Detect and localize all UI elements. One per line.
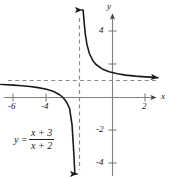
y-tick-label-4: 4 — [99, 26, 104, 35]
y-tick-label--4: -4 — [96, 158, 104, 167]
equation-numerator: x + 3 — [29, 128, 54, 139]
equation-denominator: x + 2 — [29, 140, 54, 151]
equation-annotation: y = x + 3 x + 2 — [14, 128, 54, 151]
x-tick-label--4: -4 — [41, 102, 49, 111]
x-tick-label-2: 2 — [142, 102, 147, 111]
curve-right-branch — [82, 10, 158, 78]
y-axis-label: y — [107, 2, 111, 11]
equation-lhs: y — [14, 135, 18, 145]
graph-canvas — [0, 0, 169, 178]
y-axis — [109, 14, 117, 176]
equation-equals-sign: = — [21, 135, 27, 145]
rational-function-graph-figure: -6 -4 2 4 -2 -4 x y y = x + 3 x + 2 — [0, 0, 169, 178]
x-axis-label: x — [161, 92, 165, 101]
x-tick-label--6: -6 — [8, 102, 16, 111]
y-tick-label--2: -2 — [96, 125, 104, 134]
equation-fraction: x + 3 x + 2 — [29, 128, 54, 151]
